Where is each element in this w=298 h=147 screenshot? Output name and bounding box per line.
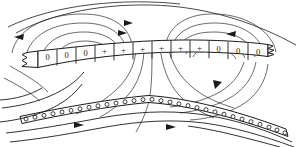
lower-band-body	[20, 96, 288, 137]
central-diving-field-lines	[76, 46, 234, 132]
left-mid-field-lines	[4, 66, 48, 101]
figure-canvas: 0 0 0 + + + + + + 0 0 0	[0, 0, 298, 147]
upper-band-torn-left-edge	[22, 51, 38, 68]
field-line-diagram: 0 0 0 + + + + + + 0 0 0	[0, 0, 298, 147]
lower-circle-sheet	[20, 96, 288, 137]
upper-band-cell-glyph: +	[102, 46, 107, 56]
upper-band-cell-glyph: 0	[83, 48, 87, 58]
lower-flow-lines	[0, 72, 294, 147]
upper-band-cell-glyph: 0	[256, 47, 260, 57]
loop-arrowheads	[118, 20, 133, 36]
upper-band-cell-glyph: +	[140, 44, 145, 54]
lower-left-flow-arrowhead	[74, 122, 84, 128]
upper-band-cell-glyph: 0	[236, 46, 240, 56]
upper-charge-sheet: 0 0 0 + + + + + + 0 0 0	[22, 40, 274, 68]
lower-right-flow-arrowhead	[166, 124, 176, 130]
upper-band-cell-glyph: +	[197, 43, 202, 53]
upper-band-cell-glyph: 0	[216, 44, 220, 54]
upper-band-cell-glyph: 0	[45, 52, 49, 62]
upper-band-cell-glyph: 0	[64, 50, 68, 60]
top-left-arrowhead	[14, 34, 24, 40]
upper-band-body	[38, 40, 268, 68]
upper-band-cell-glyph: +	[178, 43, 183, 53]
upper-band-torn-right-edge	[268, 45, 274, 57]
mid-right-arrowhead	[213, 80, 222, 89]
upper-band-cell-glyph: +	[159, 43, 164, 53]
upper-band-cell-glyph: +	[121, 45, 126, 55]
top-right-arrowhead	[226, 31, 236, 37]
